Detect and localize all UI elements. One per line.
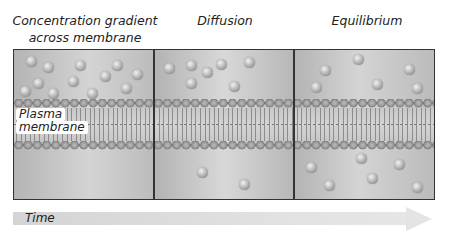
solute-particle [229, 81, 240, 92]
solute-particle [68, 76, 79, 87]
solute-particle [202, 67, 213, 78]
solute-particle [43, 62, 54, 73]
title-line-2: across membrane [10, 29, 160, 46]
solute-particle [306, 162, 317, 173]
solute-particle [239, 179, 250, 190]
diagram-frame: Plasma membrane [13, 49, 435, 200]
solute-particle [48, 88, 59, 99]
panel-divider-2 [293, 50, 295, 199]
arrow-right-icon [406, 207, 432, 231]
time-label: Time [25, 211, 55, 225]
solute-particle [121, 83, 132, 94]
plasma-membrane-label-line-2: membrane [16, 121, 88, 134]
solute-particle [412, 83, 423, 94]
solute-particle [112, 60, 123, 71]
solute-particle [26, 56, 37, 67]
solute-particle [353, 54, 364, 65]
phospholipid-heads-top [14, 99, 434, 108]
phospholipid-heads-bottom [14, 141, 434, 150]
solute-particle [20, 86, 31, 97]
title-line-1: Diffusion [175, 12, 275, 29]
panel-title-equilibrium: Equilibrium [312, 12, 422, 29]
solute-particle [320, 65, 331, 76]
title-line-1: Equilibrium [312, 12, 422, 29]
solute-particle [404, 64, 415, 75]
solute-particle [311, 82, 322, 93]
solute-particle [186, 60, 197, 71]
solute-particle [132, 69, 143, 80]
solute-particle [33, 78, 44, 89]
solute-particle [216, 59, 227, 70]
solute-particle [372, 79, 383, 90]
solute-particle [87, 88, 98, 99]
panel-divider-1 [153, 50, 155, 199]
title-line-1: Concentration gradient [10, 12, 160, 29]
solute-particle [367, 173, 378, 184]
solute-particle [164, 63, 175, 74]
solute-particle [244, 57, 255, 68]
panel-title-concentration-gradient: Concentration gradient across membrane [10, 12, 160, 46]
solute-particle [197, 167, 208, 178]
solute-particle [100, 71, 111, 82]
solute-particle [75, 60, 86, 71]
panel-title-diffusion: Diffusion [175, 12, 275, 29]
solute-particle [394, 159, 405, 170]
solute-particle [356, 153, 367, 164]
time-arrow: Time [13, 207, 433, 231]
solute-particle [412, 182, 423, 193]
time-arrow-shaft [13, 212, 408, 225]
solute-particle [324, 180, 335, 191]
solute-particle [186, 78, 197, 89]
